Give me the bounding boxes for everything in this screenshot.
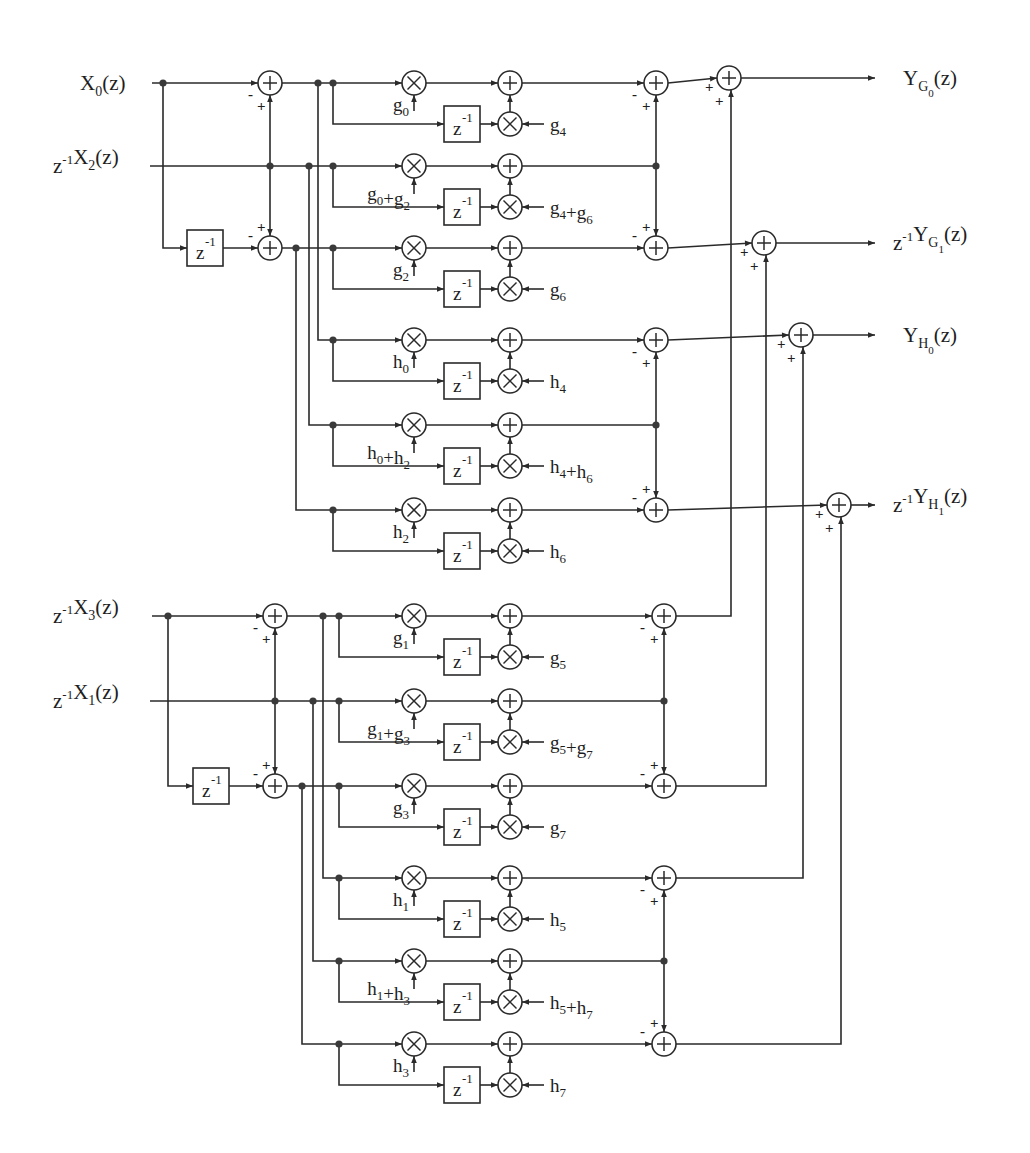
coef-base: g [394,188,404,209]
plus-sign: + [262,757,271,773]
wire [309,166,333,425]
minus-sign: - [248,86,253,102]
filter-bank-diagram: z-1z-1z-1z-1z-1z-1z-1z-1z-1z-1z-1z-1z-1z… [0,0,1030,1153]
junction-dot-icon [314,79,321,86]
arrow-wire [333,340,444,381]
coef-base: h [394,983,404,1004]
delay-exponent: -1 [462,1071,473,1086]
plus-sign: + [650,893,659,909]
multiplier-icon [402,1032,426,1056]
coef-base: g [393,259,403,280]
minus-sign: - [253,619,258,635]
adder-icon [263,604,287,628]
delay-label: z [453,996,461,1017]
multiplier-icon [498,730,522,754]
coef-subscript: 0 [403,361,410,376]
coefficient-label: h3 [393,1055,409,1080]
plus-sign: + [750,258,759,274]
coef-subscript: 7 [586,1007,593,1022]
adder-icon [652,774,676,798]
adder-icon [644,236,668,260]
signal-subscript: 1 [88,693,95,708]
delay-prefix: z [53,604,62,628]
plus-sign: + [787,350,796,366]
wire [296,248,333,510]
coef-subscript: 7 [586,747,593,762]
signal-subscript: H [928,497,938,512]
signal-base: X [73,680,88,704]
coef-subscript: 6 [560,289,567,304]
multiplier-icon [498,539,522,563]
junction-dot-icon [271,697,278,704]
delay-label: z [453,651,461,672]
delay-block-icon: z-1 [444,809,480,845]
minus-sign: - [640,619,645,635]
coef-subscript: 4 [560,124,567,139]
coef-base: g [577,202,587,223]
coef-base: g [550,197,560,218]
multiplier-icon [498,277,522,301]
multiplier-icon [498,1073,522,1097]
delay-label: z [453,821,461,842]
coef-subscript: 0 [403,104,410,119]
coefficient-label: h1 [393,889,409,914]
delay-block-icon: z-1 [444,363,480,399]
coefficient-label: g0+g2 [367,183,410,213]
junction-dot-icon [335,697,342,704]
plus-operator: + [566,461,577,482]
arrow-wire [333,248,444,289]
coef-base: h [550,909,560,930]
junction-dot-icon [329,244,336,251]
signal-subscript: G [928,235,938,250]
delay-label: z [453,201,461,222]
adder-icon [752,231,776,255]
minus-sign: - [253,765,258,781]
adder-icon [644,71,668,95]
junction-dot-icon [329,421,336,428]
delay-exponent: -1 [462,537,473,552]
arrow-wire [339,1044,444,1085]
arrow-wire [676,255,766,786]
plus-sign: + [740,244,749,260]
wire [313,701,339,961]
delay-block-icon: z-1 [444,106,480,142]
coef-subscript: 2 [404,198,411,213]
coef-subscript: 5 [560,657,567,672]
signal-base: X [80,71,95,95]
delay-exponent: -1 [462,988,473,1003]
coefficient-label: g1+g3 [367,718,410,748]
coef-base: h [393,1055,403,1076]
delay-block-icon: z-1 [444,639,480,675]
delay-label: z [453,913,461,934]
adder-icon [498,71,522,95]
coef-base: h [393,351,403,372]
coef-base: g [367,183,377,204]
adder-icon [652,604,676,628]
adder-icon [498,328,522,352]
coef-base: h [367,442,377,463]
coef-base: h [577,461,587,482]
coef-base: h [550,1075,560,1096]
plus-operator: + [566,737,577,758]
coefficient-label: g5+g7 [550,732,593,762]
coef-base: g [577,737,587,758]
delay-exponent: -1 [462,813,473,828]
output-label-yg1: z-1YG1(z) [893,222,967,255]
signal-subscript: 3 [88,608,95,623]
multiplier-icon [402,866,426,890]
delay-block-icon: z-1 [444,901,480,937]
coefficient-label: g4 [550,114,567,139]
delay-block-icon: z-1 [444,533,480,569]
coef-base: g [393,797,403,818]
delay-exponent: -1 [205,234,216,249]
signal-base: Y [903,66,918,90]
coef-base: h [367,978,377,999]
multiplier-icon [402,236,426,260]
coef-subscript: 2 [403,269,410,284]
coefficient-label: h5 [550,909,566,934]
delay-label: z [453,375,461,396]
delay-block-icon: z-1 [444,724,480,760]
delay-exponent: -1 [462,193,473,208]
minus-sign: - [640,765,645,781]
junction-dot-icon [292,244,299,251]
